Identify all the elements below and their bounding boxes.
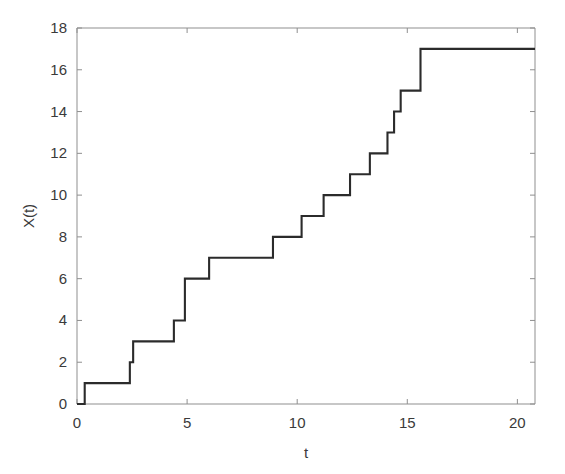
step-plot: 05101520 024681012141618 t X(t) (0, 0, 565, 474)
x-tick-label: 5 (183, 414, 191, 431)
y-tick-label: 16 (50, 61, 67, 78)
y-tick-label: 2 (59, 353, 67, 370)
y-tick-label: 10 (50, 186, 67, 203)
y-tick-label: 8 (59, 228, 67, 245)
y-tick-label: 0 (59, 395, 67, 412)
x-tick-label: 20 (509, 414, 526, 431)
x-axis-ticks (77, 28, 517, 404)
figure-canvas: 05101520 024681012141618 t X(t) (0, 0, 565, 474)
x-axis-title: t (304, 444, 309, 461)
step-function-curve (77, 49, 535, 404)
y-axis-title: X(t) (20, 204, 37, 228)
y-tick-label: 6 (59, 270, 67, 287)
x-tick-label: 0 (73, 414, 81, 431)
y-tick-label: 4 (59, 311, 67, 328)
y-tick-label: 12 (50, 144, 67, 161)
y-tick-label: 14 (50, 103, 67, 120)
x-tick-label: 15 (399, 414, 416, 431)
y-tick-label: 18 (50, 19, 67, 36)
y-axis-tick-labels: 024681012141618 (50, 19, 67, 412)
x-axis-tick-labels: 05101520 (73, 414, 526, 431)
x-tick-label: 10 (289, 414, 306, 431)
